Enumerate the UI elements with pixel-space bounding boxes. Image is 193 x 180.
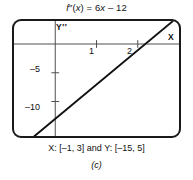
- y-axis-label: Y′′: [56, 23, 67, 32]
- plot-frame: [12, 19, 181, 138]
- equation-title: f″(x) = 6x – 12: [0, 2, 193, 14]
- figure-part-label: (c): [0, 159, 193, 171]
- x-tick-label-2: 2: [127, 46, 132, 56]
- y-tick-label-minus10: –10: [25, 102, 40, 112]
- window-range-caption: X: [–1, 3] and Y: [–15, 5]: [0, 142, 193, 154]
- y-tick-label-minus5: –5: [30, 64, 40, 74]
- x-axis-label: X: [168, 33, 174, 42]
- figure-container: f″(x) = 6x – 12 Y′′ X 1 2 –5 –10 X: [–1,…: [0, 0, 193, 180]
- plot-canvas: [14, 21, 179, 136]
- x-tick-label-1: 1: [89, 46, 94, 56]
